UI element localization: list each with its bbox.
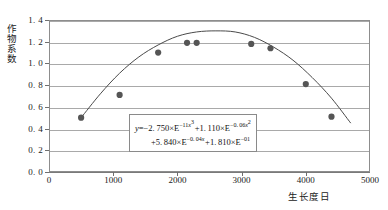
y-tick-label: 0. 0 <box>28 167 43 177</box>
x-tick-label: 2000 <box>168 175 186 185</box>
x-tick-label: 0 <box>47 175 52 185</box>
y-tick-label: 1. 4 <box>28 15 43 25</box>
x-tick-label: 3000 <box>233 175 251 185</box>
x-tick-mark <box>306 172 307 176</box>
y-tick-label: 0. 2 <box>28 145 43 155</box>
x-axis-spine <box>49 172 370 173</box>
x-tick-label: 5000 <box>361 175 379 185</box>
data-point <box>78 115 84 121</box>
data-point <box>155 49 161 55</box>
equation-annotation: y=−2. 750×E−11x3 +1. 110×E−0. 06x2 +5. 8… <box>129 114 257 152</box>
x-tick-label: 1000 <box>104 175 122 185</box>
y-tick-label: 0. 4 <box>28 124 43 134</box>
x-tick-mark <box>113 172 114 176</box>
chart-figure: 作物系数 生长度日 0. 00. 20. 40. 60. 81. 01. 21.… <box>0 0 388 210</box>
fitted-curve <box>81 31 351 123</box>
x-axis-title: 生长度日 <box>288 189 330 203</box>
equation-line-2: +5. 840×E−0. 04x +1. 810×E−01 <box>135 134 251 148</box>
y-axis-title: 作物系数 <box>2 24 16 64</box>
data-point <box>248 41 254 47</box>
data-point <box>303 81 309 87</box>
data-point <box>328 114 334 120</box>
y-tick-label: 0. 8 <box>28 80 43 90</box>
y-tick-label: 1. 0 <box>28 58 43 68</box>
x-tick-label: 4000 <box>297 175 315 185</box>
y-tick-mark <box>45 172 49 173</box>
y-tick-label: 0. 6 <box>28 102 43 112</box>
data-point <box>267 45 273 51</box>
data-point <box>194 40 200 46</box>
data-point <box>117 92 123 98</box>
x-tick-mark <box>177 172 178 176</box>
equation-line-1: y=−2. 750×E−11x3 +1. 110×E−0. 06x2 <box>135 117 251 134</box>
x-tick-mark <box>242 172 243 176</box>
data-point <box>184 40 190 46</box>
y-tick-label: 1. 2 <box>28 37 43 47</box>
